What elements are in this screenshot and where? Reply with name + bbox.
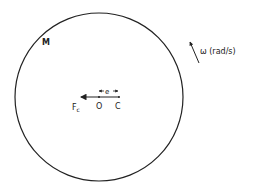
diagram-canvas: M ω (rad/s) e Fc O C: [0, 0, 255, 191]
omega-arrow: [190, 42, 199, 63]
origin-label: O: [96, 102, 102, 111]
force-subscript: c: [77, 106, 80, 113]
mass-label: M: [42, 38, 50, 47]
force-label: Fc: [72, 103, 80, 113]
point-o: [98, 96, 100, 98]
center-label: C: [115, 102, 121, 111]
omega-label: ω (rad/s): [200, 47, 236, 56]
point-c: [118, 96, 120, 98]
eccentricity-label: e: [105, 88, 109, 96]
